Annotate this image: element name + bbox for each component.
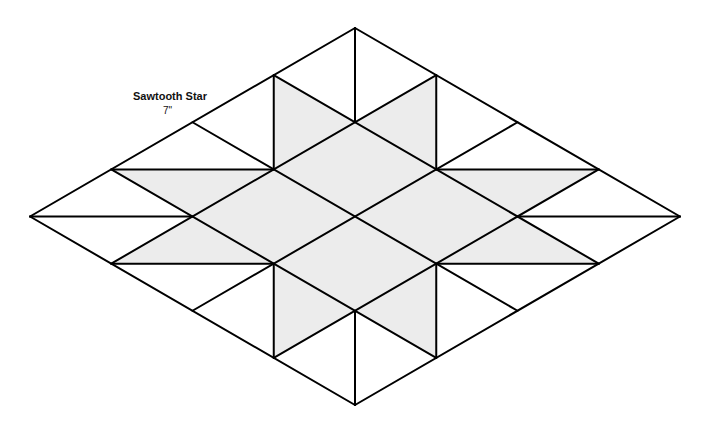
sawtooth-star-block (0, 0, 704, 429)
block-size: 7" (163, 105, 172, 116)
seam-lines (30, 28, 680, 405)
block-title: Sawtooth Star (133, 90, 207, 102)
quilt-diagram: Sawtooth Star 7" (0, 0, 704, 429)
